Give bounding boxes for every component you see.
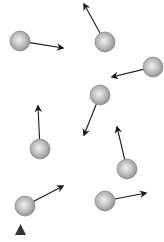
ball-icon <box>10 31 30 51</box>
velocity-arrow-icon <box>115 193 146 199</box>
ball-icon <box>90 85 110 105</box>
particles-group <box>10 4 163 216</box>
particle <box>15 186 63 216</box>
velocity-arrow-icon <box>84 104 96 135</box>
ball-icon <box>95 32 115 52</box>
particle <box>112 57 163 77</box>
velocity-arrow-icon <box>84 4 100 33</box>
particle <box>117 127 137 179</box>
triangle-marker-icon <box>15 224 26 235</box>
ball-icon <box>95 191 115 211</box>
diagram-canvas <box>0 0 164 242</box>
velocity-arrow-icon <box>38 106 40 139</box>
ball-icon <box>30 139 50 159</box>
particle <box>30 106 50 159</box>
ball-icon <box>15 196 35 216</box>
particle <box>10 31 63 51</box>
particle-diagram <box>0 0 164 242</box>
velocity-arrow-icon <box>112 69 143 77</box>
velocity-arrow-icon <box>34 186 63 201</box>
particle <box>95 191 146 211</box>
velocity-arrow-icon <box>117 127 125 159</box>
ball-icon <box>117 159 137 179</box>
ball-icon <box>143 57 163 77</box>
velocity-arrow-icon <box>30 43 63 48</box>
particle <box>84 4 115 52</box>
particle <box>84 85 110 135</box>
